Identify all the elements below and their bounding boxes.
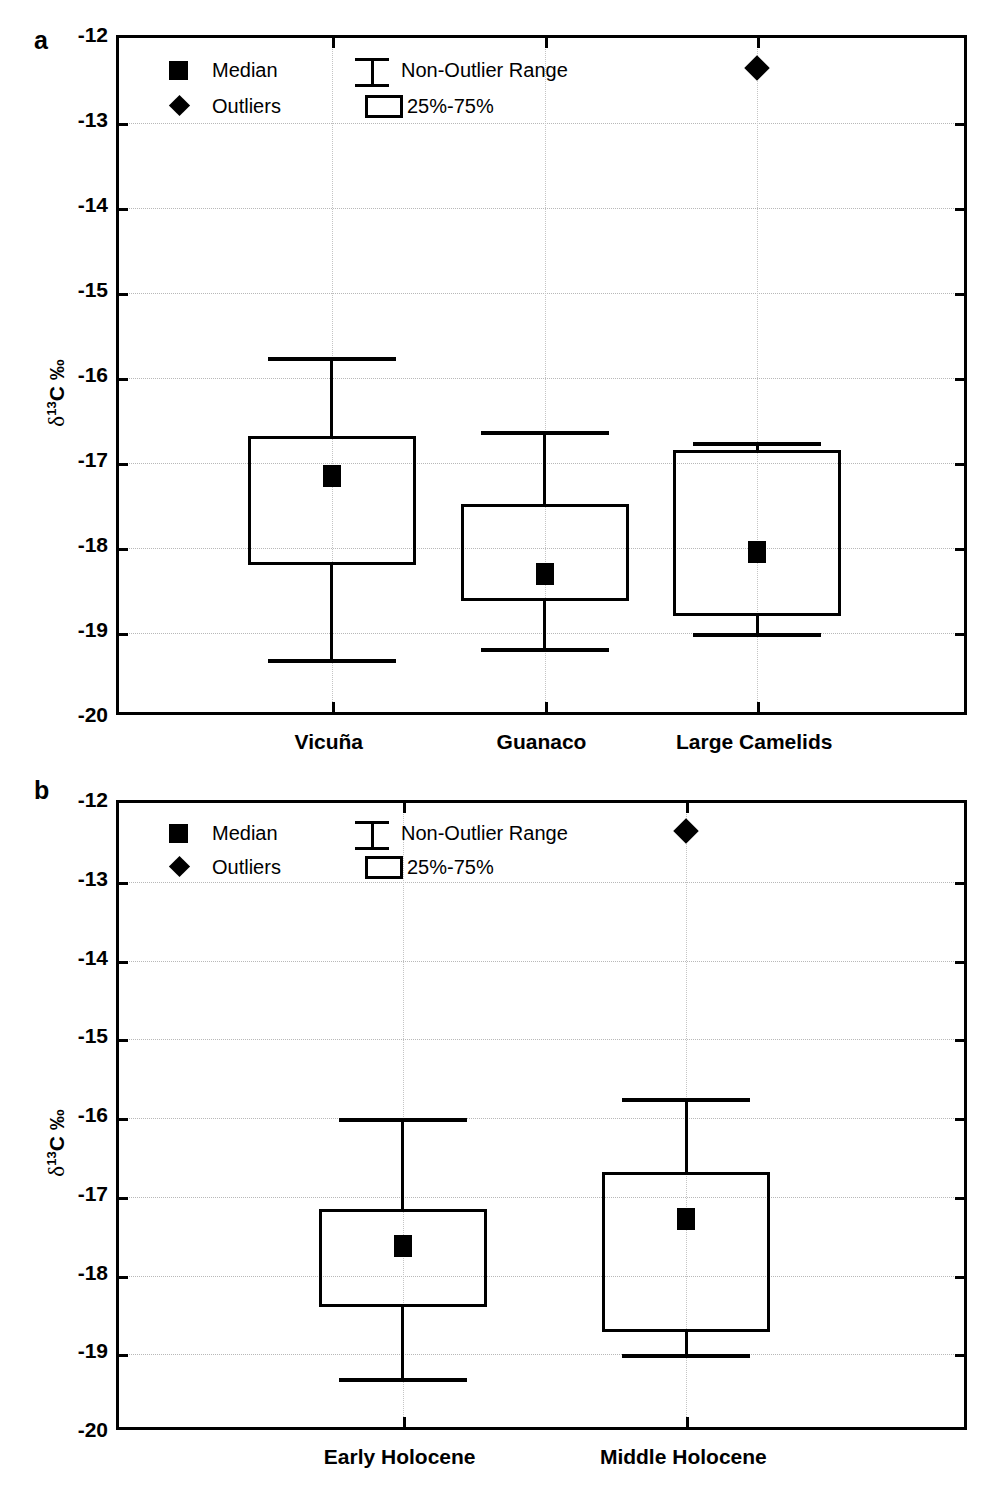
whisker-upper [330,357,333,436]
y-axis-tick-label: -12 [46,24,108,45]
y-axis-tick [955,1039,964,1042]
x-axis-tick [403,803,406,813]
whisker-cap-upper [481,431,609,435]
whisker-cap-lower [693,633,821,637]
x-axis-tick [686,1417,689,1427]
legend-outliers-label: Outliers [212,96,281,116]
y-axis-tick [955,378,964,381]
whisker-upper [543,431,546,504]
legend-median-label: Median [212,60,278,80]
y-axis-tick-label: -14 [46,194,108,215]
gridline-horizontal [119,1118,964,1119]
legend-outlier-diamond-icon [169,856,190,877]
y-axis-tick [119,208,128,211]
y-axis-tick-label: -17 [46,449,108,470]
y-axis-tick [119,1197,128,1200]
y-axis-tick [119,378,128,381]
y-axis-tick-label: -14 [46,947,108,968]
legend-iqr-box-icon [365,856,403,879]
gridline-horizontal [119,208,964,209]
gridline-horizontal [119,1276,964,1277]
gridline-horizontal [119,1354,964,1355]
y-axis-tick-label: -19 [46,1340,108,1361]
gridline-horizontal [119,1039,964,1040]
panel-b: b δ13C ‰ MedianOutliersNon-Outlier Range… [0,750,994,1489]
y-axis-tick [119,463,128,466]
y-axis-tick-label: -18 [46,534,108,555]
legend-outlier-diamond-icon [169,95,190,116]
whisker-lower [685,1332,688,1354]
panel-a: a δ13C ‰ MedianOutliersNon-Outlier Range… [0,0,994,750]
whisker-cap-upper [693,442,821,446]
legend-iqr-box-icon [365,95,403,118]
y-axis-tick-label: -20 [46,704,108,725]
y-axis-tick [119,548,128,551]
x-axis-tick [403,1417,406,1427]
isotope-superscript: 13 [44,1151,59,1165]
gridline-horizontal [119,882,964,883]
isotope-superscript: 13 [44,401,59,415]
y-axis-tick-label: -17 [46,1183,108,1204]
x-axis-tick-label: Large Camelids [604,731,904,752]
y-axis-tick [955,961,964,964]
median-marker [323,465,341,487]
legend-non-outlier-range-label: Non-Outlier Range [401,823,568,843]
gridline-horizontal [119,123,964,124]
y-axis-tick [119,882,128,885]
y-axis-tick [955,633,964,636]
whisker-upper [401,1118,404,1209]
iqr-box [248,436,416,565]
y-axis-tick-label: -20 [46,1419,108,1440]
whisker-lower [401,1307,404,1378]
y-axis-title-a: δ13C ‰ [44,328,70,458]
legend-iqr-label: 25%-75% [407,96,494,116]
whisker-cap-lower [622,1354,750,1358]
x-axis-tick-label: Middle Holocene [533,1446,833,1467]
delta-symbol: δ [44,1166,69,1177]
legend-range-stem-icon [371,821,374,847]
outlier-marker [674,818,699,843]
legend-range-cap-bottom-icon [355,84,389,87]
legend-range-cap-top-icon [355,58,389,61]
y-axis-tick-label: -16 [46,1104,108,1125]
y-axis-tick [119,1354,128,1357]
iqr-box [461,504,629,601]
whisker-cap-lower [268,659,396,663]
iqr-box [602,1172,770,1333]
y-axis-tick-label: -15 [46,1025,108,1046]
x-axis-tick [757,38,760,48]
y-axis-tick-label: -13 [46,109,108,130]
median-marker [536,563,554,585]
median-marker [748,541,766,563]
y-axis-tick [955,463,964,466]
gridline-horizontal [119,378,964,379]
plot-area-b: MedianOutliersNon-Outlier Range25%-75% [116,800,967,1430]
y-axis-tick [119,123,128,126]
plot-area-a: MedianOutliersNon-Outlier Range25%-75% [116,35,967,715]
whisker-cap-lower [481,648,609,652]
y-axis-tick [955,548,964,551]
y-axis-tick [119,1276,128,1279]
y-axis-tick [119,1039,128,1042]
iqr-box [319,1209,487,1307]
y-axis-tick [955,882,964,885]
y-axis-tick [955,293,964,296]
legend-median-square-icon [169,61,188,80]
y-axis-tick [119,961,128,964]
x-axis-tick [545,38,548,48]
legend-range-stem-icon [371,58,374,84]
y-axis-tick [119,1118,128,1121]
legend-non-outlier-range-label: Non-Outlier Range [401,60,568,80]
legend-range-cap-top-icon [355,821,389,824]
x-axis-tick [332,702,335,712]
gridline-horizontal [119,633,964,634]
y-axis-tick [955,1354,964,1357]
x-axis-tick-label: Early Holocene [250,1446,550,1467]
x-axis-tick [332,38,335,48]
legend-outliers-label: Outliers [212,857,281,877]
y-axis-tick [955,208,964,211]
legend-median-label: Median [212,823,278,843]
y-axis-tick-label: -13 [46,868,108,889]
iqr-box [673,450,841,616]
whisker-lower [756,616,759,633]
